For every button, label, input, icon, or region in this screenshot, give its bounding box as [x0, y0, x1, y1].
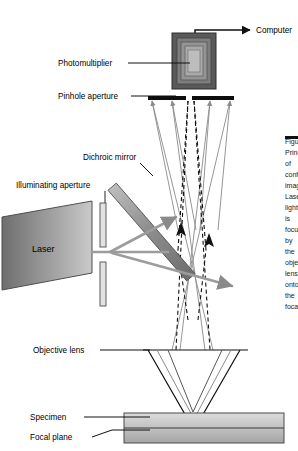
caption-line: of: [285, 158, 298, 169]
label-laser: Laser: [32, 244, 55, 254]
caption-line: the: [285, 290, 298, 301]
label-illuminating-aperture: Illuminating aperture: [16, 181, 91, 190]
label-objective-lens: Objective lens: [33, 346, 84, 355]
ray-bundle-solid: [152, 101, 230, 350]
caption-line: by: [285, 235, 298, 246]
caption-line: the: [285, 246, 298, 257]
label-photomultiplier: Photomultiplier: [58, 59, 112, 68]
label-pinhole-aperture: Pinhole aperture: [58, 92, 119, 101]
label-computer: Computer: [256, 26, 292, 35]
leader-dichroic: [140, 163, 153, 176]
caption-line: Principle: [285, 147, 298, 158]
photomultiplier-unit: [172, 33, 216, 89]
confocal-diagram: Computer Photomultiplier Pinhole apertur…: [0, 0, 298, 451]
label-dichroic-mirror: Dichroic mirror: [83, 153, 136, 162]
caption-line: objective: [285, 257, 298, 268]
caption-line: focused: [285, 224, 298, 235]
caption-line: light: [285, 202, 298, 213]
caption-line: Laser: [285, 191, 298, 202]
laser-beam: [92, 217, 232, 286]
caption-line: confocal: [285, 169, 298, 180]
caption-line: is: [285, 213, 298, 224]
caption-line: lens: [285, 268, 298, 279]
caption-line: Figure: [285, 136, 298, 147]
figure-canvas: Computer Photomultiplier Pinhole apertur…: [0, 0, 298, 451]
illuminating-aperture-slits: [100, 203, 106, 306]
pinhole-aperture-bar: [148, 96, 234, 100]
caption-line: imaging.: [285, 180, 298, 191]
label-focal-plane: Focal plane: [30, 433, 73, 442]
caption-line: onto: [285, 279, 298, 290]
label-specimen: Specimen: [30, 413, 67, 422]
caption-line: focal: [285, 301, 298, 312]
caption-column: FigurePrincipleofconfocalimaging.Laserli…: [285, 136, 298, 312]
laser-source: Laser: [2, 201, 92, 290]
